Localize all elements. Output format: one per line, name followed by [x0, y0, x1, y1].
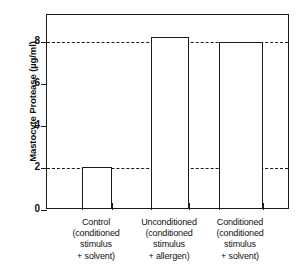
bar-2 — [151, 37, 189, 208]
x-tick-1 — [82, 203, 83, 210]
plot-inner — [47, 15, 288, 208]
x-category-1-line-1: Control — [57, 217, 135, 228]
x-category-3-line-1: Conditioned — [200, 217, 280, 228]
x-category-1-line-2: (conditioned — [57, 228, 135, 239]
x-category-label-3: Conditioned(conditionedstimulus+ solvent… — [200, 217, 280, 262]
x-category-label-1: Control(conditionedstimulus+ solvent) — [57, 217, 135, 262]
y-tick-label-0: 0 — [22, 204, 40, 214]
x-tick-4 — [189, 203, 190, 210]
x-tick-2 — [112, 203, 113, 210]
y-tick-label-8: 8 — [22, 36, 40, 46]
y-tick-label-6: 6 — [22, 78, 40, 88]
bar-3 — [219, 42, 263, 208]
y-tick-label-2: 2 — [22, 162, 40, 172]
figure-bar-chart: Mastocyte Protease (µg/ml) 02468 Control… — [0, 0, 302, 279]
y-tick-6 — [41, 84, 47, 85]
x-category-3-line-3: stimulus — [200, 239, 280, 250]
plot-area — [46, 14, 289, 209]
y-tick-2 — [41, 168, 47, 169]
x-category-3-line-4: + solvent) — [200, 251, 280, 262]
bar-1 — [82, 167, 112, 208]
x-category-1-line-4: + solvent) — [57, 251, 135, 262]
y-tick-label-4: 4 — [22, 120, 40, 130]
x-category-3-line-2: (conditioned — [200, 228, 280, 239]
x-tick-5 — [219, 203, 220, 210]
y-tick-0 — [41, 210, 47, 211]
x-tick-6 — [263, 203, 264, 210]
y-tick-8 — [41, 42, 47, 43]
y-tick-4 — [41, 126, 47, 127]
x-category-1-line-3: stimulus — [57, 239, 135, 250]
x-tick-3 — [151, 203, 152, 210]
